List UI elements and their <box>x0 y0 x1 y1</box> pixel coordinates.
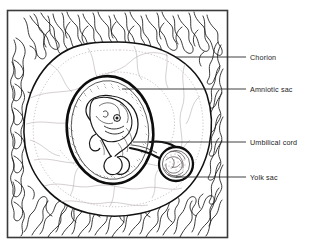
label-umbilical-cord: Umbilical cord <box>250 139 297 146</box>
embryo-lower-limb-bud <box>104 156 122 175</box>
figure-page: Chorion Amniotic sac Umbilical cord Yolk… <box>0 0 309 246</box>
label-chorion: Chorion <box>250 54 276 61</box>
label-yolk-sac: Yolk sac <box>250 174 278 181</box>
embryo-diagram <box>0 0 309 246</box>
label-amniotic-sac: Amniotic sac <box>250 86 293 93</box>
embryo-eye-pupil <box>116 117 119 120</box>
yolk-sac-inner-membrane <box>162 150 189 177</box>
